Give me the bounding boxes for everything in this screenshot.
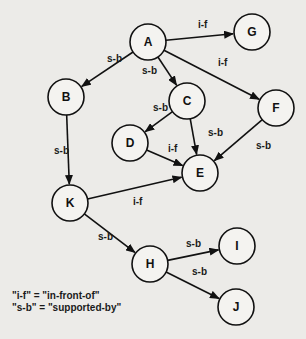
edge-label-H-J: s-b — [192, 266, 207, 277]
edge-label-B-K: s-b — [54, 145, 69, 156]
node-G: G — [234, 14, 270, 50]
edge-label-F-E: s-b — [256, 140, 271, 151]
node-A: A — [130, 24, 166, 60]
legend: "i-f" = "in-front-of" "s-b" = "supported… — [12, 290, 121, 314]
edge-label-A-B: s-b — [107, 53, 122, 64]
edge-label-A-F: i-f — [218, 57, 228, 68]
edge-label-C-D: s-b — [153, 102, 168, 113]
svg-text:B: B — [62, 90, 71, 104]
edge-label-H-I: s-b — [186, 238, 201, 249]
semantic-network-diagram: i-fs-bs-bi-fs-bs-bs-bi-fs-bi-fs-bs-bs-b … — [0, 0, 306, 339]
edge-A-G — [166, 34, 233, 40]
edge-label-A-C: s-b — [142, 65, 157, 76]
node-F: F — [258, 90, 294, 126]
node-I: I — [219, 228, 255, 264]
node-H: H — [132, 246, 168, 282]
node-E: E — [182, 155, 218, 191]
edge-label-K-H: s-b — [98, 231, 113, 242]
svg-text:C: C — [183, 94, 192, 108]
svg-text:A: A — [144, 35, 153, 49]
node-D: D — [112, 125, 148, 161]
edge-label-C-E: s-b — [208, 127, 223, 138]
svg-text:K: K — [66, 196, 75, 210]
svg-text:H: H — [146, 257, 155, 271]
edge-A-C — [158, 57, 177, 85]
svg-text:D: D — [126, 136, 135, 150]
edge-label-A-G: i-f — [198, 19, 208, 30]
node-C: C — [169, 83, 205, 119]
edge-C-D — [145, 112, 172, 132]
node-K: K — [52, 185, 88, 221]
edge-label-D-E: i-f — [168, 143, 178, 154]
svg-text:E: E — [196, 166, 204, 180]
svg-text:G: G — [247, 25, 256, 39]
legend-sb: "s-b" = "supported-by" — [12, 302, 121, 314]
svg-text:F: F — [272, 101, 279, 115]
svg-text:I: I — [235, 239, 238, 253]
svg-text:J: J — [233, 300, 240, 314]
edge-H-I — [168, 250, 219, 261]
node-J: J — [218, 289, 254, 325]
nodes-layer: AGBCFDEKHIJ — [48, 14, 294, 325]
edge-C-E — [190, 119, 196, 155]
node-B: B — [48, 79, 84, 115]
edge-label-K-E: i-f — [133, 196, 143, 207]
legend-if: "i-f" = "in-front-of" — [12, 290, 121, 302]
